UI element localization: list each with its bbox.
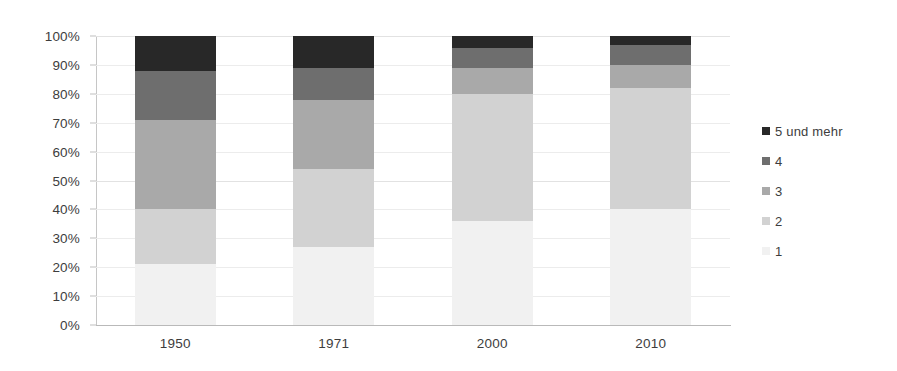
y-tick-label: 100% (45, 29, 80, 44)
bar-segment[interactable] (293, 36, 374, 68)
legend-label: 3 (775, 184, 782, 199)
legend-swatch-icon (762, 157, 770, 165)
bar-group[interactable] (452, 36, 533, 325)
bar-segment[interactable] (610, 45, 691, 65)
legend-item[interactable]: 2 (762, 208, 894, 234)
legend-item[interactable]: 5 und mehr (762, 118, 894, 144)
y-tick-mark (90, 180, 96, 181)
y-tick-label: 60% (52, 144, 80, 159)
x-axis: 1950197120002010 (96, 332, 730, 358)
y-tick-label: 20% (52, 260, 80, 275)
bar-segment[interactable] (293, 247, 374, 325)
y-tick-mark (90, 238, 96, 239)
y-tick-mark (90, 93, 96, 94)
legend-label: 2 (775, 214, 782, 229)
y-tick-label: 30% (52, 231, 80, 246)
bar-segment[interactable] (293, 68, 374, 100)
legend-item[interactable]: 4 (762, 148, 894, 174)
bar-segment[interactable] (452, 48, 533, 68)
bar-segment[interactable] (610, 65, 691, 88)
bar-segment[interactable] (452, 68, 533, 94)
y-tick-mark (90, 64, 96, 65)
y-tick-mark (90, 209, 96, 210)
bar-segment[interactable] (610, 36, 691, 45)
legend-swatch-icon (762, 247, 770, 255)
legend-label: 4 (775, 154, 782, 169)
bar-segment[interactable] (452, 221, 533, 325)
bar-group[interactable] (135, 36, 216, 325)
y-tick-label: 80% (52, 86, 80, 101)
legend-item[interactable]: 3 (762, 178, 894, 204)
y-axis: 0%10%20%30%40%50%60%70%80%90%100% (0, 36, 88, 325)
y-tick-mark (90, 151, 96, 152)
bar-segment[interactable] (135, 209, 216, 264)
bar-segment[interactable] (452, 36, 533, 48)
bar-segment[interactable] (135, 36, 216, 71)
bar-group[interactable] (293, 36, 374, 325)
bar-segment[interactable] (293, 169, 374, 247)
x-tick-label: 2010 (635, 336, 666, 351)
bar-segment[interactable] (135, 71, 216, 120)
y-tick-mark (90, 122, 96, 123)
legend-item[interactable]: 1 (762, 238, 894, 264)
bar-segment[interactable] (610, 209, 691, 325)
y-tick-label: 70% (52, 115, 80, 130)
legend-swatch-icon (762, 187, 770, 195)
y-tick-label: 90% (52, 57, 80, 72)
bar-segment[interactable] (135, 264, 216, 325)
y-tick-label: 0% (60, 318, 80, 333)
legend-swatch-icon (762, 217, 770, 225)
legend-label: 5 und mehr (775, 124, 843, 139)
legend-label: 1 (775, 244, 782, 259)
chart-legend: 5 und mehr4321 (762, 118, 894, 268)
bar-group[interactable] (610, 36, 691, 325)
bar-segment[interactable] (135, 120, 216, 210)
legend-swatch-icon (762, 127, 770, 135)
y-tick-mark (90, 325, 96, 326)
bar-segment[interactable] (610, 88, 691, 209)
y-tick-label: 10% (52, 289, 80, 304)
x-axis-line (96, 325, 731, 326)
y-tick-mark (90, 296, 96, 297)
y-tick-mark (90, 267, 96, 268)
y-tick-label: 50% (52, 173, 80, 188)
bar-segment[interactable] (293, 100, 374, 169)
x-tick-label: 2000 (477, 336, 508, 351)
y-tick-mark (90, 36, 96, 37)
plot-area (96, 36, 730, 325)
x-tick-label: 1971 (318, 336, 349, 351)
bar-segment[interactable] (452, 94, 533, 221)
y-tick-label: 40% (52, 202, 80, 217)
stacked-bar-chart: 0%10%20%30%40%50%60%70%80%90%100% 195019… (0, 0, 897, 371)
x-tick-label: 1950 (160, 336, 191, 351)
